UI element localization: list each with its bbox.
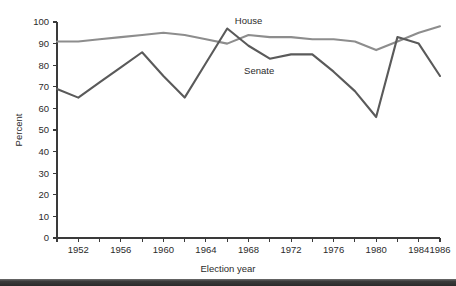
y-tick-label: 30 [38, 168, 49, 179]
y-tick-label: 20 [38, 189, 49, 200]
x-tick-label: 1952 [68, 244, 89, 255]
x-axis-tick-labels: 1952195619601964196819721976198019841986 [68, 244, 451, 255]
chart-figure: 0102030405060708090100 19521956196019641… [0, 0, 456, 286]
x-tick-label: 1964 [195, 244, 216, 255]
x-tick-label: 1986 [429, 244, 450, 255]
x-axis-title: Election year [201, 263, 256, 274]
y-tick-label: 70 [38, 81, 49, 92]
line-chart: 0102030405060708090100 19521956196019641… [0, 0, 456, 286]
y-axis-tick-labels: 0102030405060708090100 [33, 16, 49, 243]
y-tick-label: 10 [38, 211, 49, 222]
x-axis-tick-marks [57, 238, 440, 242]
y-tick-label: 60 [38, 103, 49, 114]
y-tick-label: 80 [38, 60, 49, 71]
x-tick-label: 1968 [238, 244, 259, 255]
y-tick-label: 100 [33, 16, 49, 27]
x-tick-label: 1972 [280, 244, 301, 255]
y-tick-label: 50 [38, 124, 49, 135]
y-tick-label: 40 [38, 146, 49, 157]
y-tick-label: 0 [44, 232, 49, 243]
axis-lines [57, 22, 440, 238]
series-label-senate: Senate [244, 65, 274, 76]
y-axis-title: Percent [13, 113, 24, 146]
x-tick-label: 1960 [153, 244, 174, 255]
x-tick-label: 1984 [408, 244, 429, 255]
series-label-house: House [235, 15, 262, 26]
bottom-decorative-bar [0, 279, 456, 286]
x-tick-label: 1980 [366, 244, 387, 255]
x-tick-label: 1976 [323, 244, 344, 255]
y-axis-tick-marks [53, 22, 57, 238]
axes [53, 22, 440, 242]
y-tick-label: 90 [38, 38, 49, 49]
x-tick-label: 1956 [110, 244, 131, 255]
